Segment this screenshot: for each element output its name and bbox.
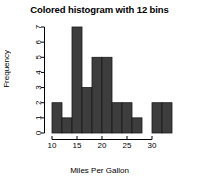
- y-tick-label: 3: [34, 85, 43, 90]
- histogram-bar: [72, 27, 82, 133]
- histogram-bar: [52, 103, 62, 133]
- x-tick-labels: 1015202530: [48, 141, 157, 150]
- histogram-bar: [112, 103, 122, 133]
- histogram-bar: [132, 118, 142, 133]
- y-tick-label: 6: [34, 39, 43, 44]
- y-tick-labels: 01234567: [34, 24, 43, 135]
- histogram-bar: [122, 103, 132, 133]
- histogram-bar: [92, 57, 102, 133]
- bar-group: [52, 27, 172, 133]
- x-tick-label: 25: [123, 141, 132, 150]
- histogram-plot: Colored histogram with 12 bins Frequency…: [0, 0, 199, 180]
- y-tick-label: 5: [34, 55, 43, 60]
- histogram-bar: [102, 57, 112, 133]
- x-tick-label: 30: [148, 141, 157, 150]
- y-tick-label: 0: [34, 130, 43, 135]
- y-tick-label: 1: [34, 115, 43, 120]
- histogram-bar: [82, 88, 92, 133]
- x-tick-label: 20: [98, 141, 107, 150]
- plot-canvas: 01234567 1015202530: [0, 0, 199, 180]
- y-tick-label: 4: [34, 70, 43, 75]
- histogram-bar: [152, 103, 162, 133]
- x-axis: [52, 136, 152, 140]
- y-tick-label: 2: [34, 100, 43, 105]
- x-tick-label: 10: [48, 141, 57, 150]
- histogram-bar: [162, 103, 172, 133]
- histogram-bar: [62, 118, 72, 133]
- x-tick-label: 15: [73, 141, 82, 150]
- y-tick-label: 7: [34, 24, 43, 29]
